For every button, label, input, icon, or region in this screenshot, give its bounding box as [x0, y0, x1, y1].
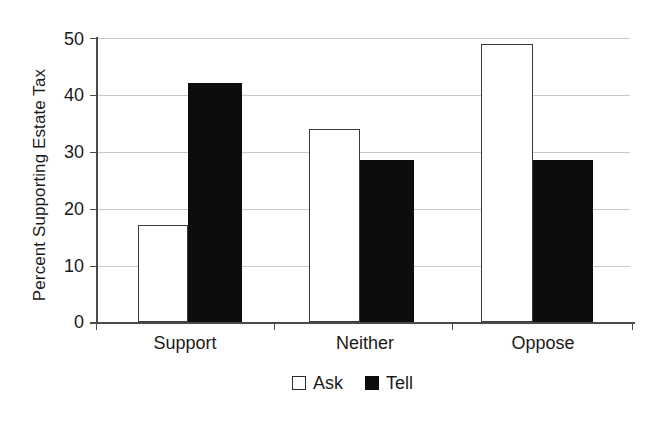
x-tick-mark-start [96, 322, 97, 330]
legend-item-tell: Tell [365, 374, 413, 392]
legend-label-ask: Ask [313, 374, 343, 392]
y-tick-label-50: 50 [48, 29, 84, 50]
y-axis-title: Percent Supporting Estate Tax [30, 35, 50, 335]
y-tick-label-30: 30 [48, 142, 84, 163]
x-axis-line [90, 322, 635, 324]
bar-oppose-ask [481, 44, 533, 322]
x-tick-mark-1 [274, 322, 275, 330]
white-square-icon [292, 376, 306, 390]
x-category-label-neither: Neither [300, 333, 430, 354]
y-tick-label-40: 40 [48, 85, 84, 106]
y-axis-line [96, 37, 98, 324]
x-category-label-oppose: Oppose [478, 333, 608, 354]
bar-chart-figure: Percent Supporting Estate Tax 50 40 30 2… [0, 0, 658, 423]
legend-label-tell: Tell [386, 374, 413, 392]
legend: Ask Tell [292, 374, 413, 392]
gridline-30 [97, 152, 630, 153]
black-square-icon [365, 376, 379, 390]
x-tick-mark-2 [452, 322, 453, 330]
gridline-40 [97, 95, 630, 96]
bar-oppose-tell [533, 160, 593, 322]
plot-area [97, 38, 630, 322]
x-category-label-support: Support [120, 333, 250, 354]
bar-neither-ask [309, 129, 360, 322]
bar-neither-tell [360, 160, 414, 322]
y-tick-label-10: 10 [48, 256, 84, 277]
y-tick-label-0: 0 [48, 312, 84, 333]
y-tick-label-20: 20 [48, 199, 84, 220]
x-tick-mark-end [632, 322, 633, 330]
bar-support-tell [188, 83, 242, 322]
legend-item-ask: Ask [292, 374, 343, 392]
bar-support-ask [138, 225, 188, 322]
gridline-50 [97, 38, 630, 39]
